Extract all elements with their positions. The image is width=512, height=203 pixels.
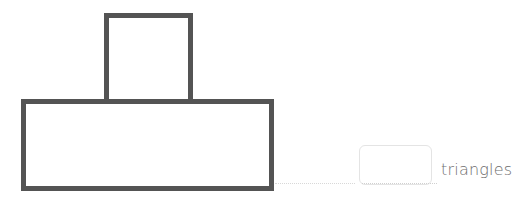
dotted-guide-line [275, 183, 355, 184]
unit-label: triangles [441, 160, 512, 179]
answer-dotted-line [362, 183, 437, 184]
large-rectangle-shape [21, 99, 274, 191]
small-square-shape [104, 13, 193, 104]
answer-input-box[interactable] [359, 145, 432, 185]
